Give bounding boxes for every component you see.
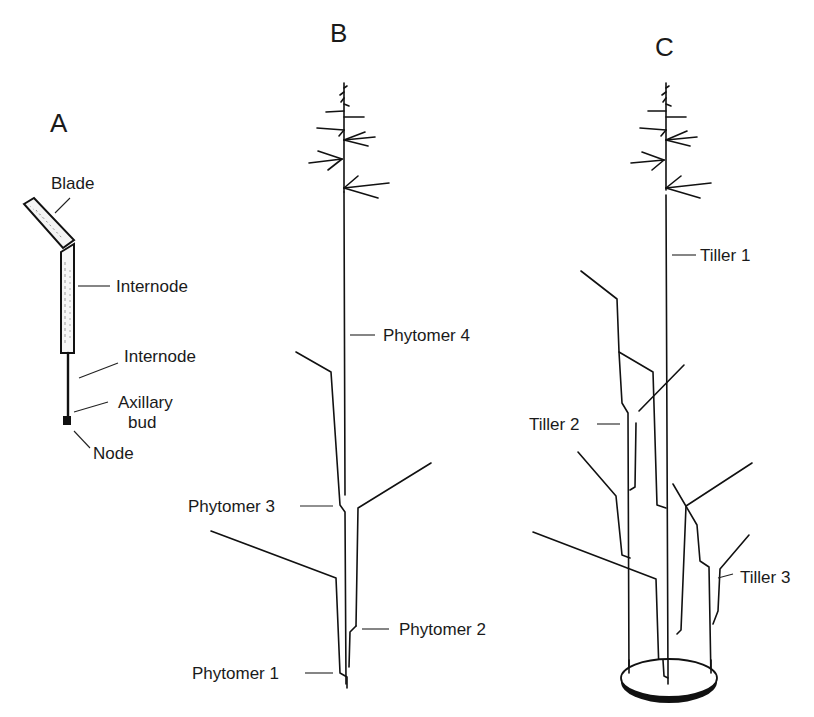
panel-b: B (188, 18, 486, 688)
inflorescence-c (631, 83, 711, 198)
tiller-3-leaf-2 (673, 484, 711, 680)
label-tiller-2: Tiller 2 (529, 415, 579, 434)
panel-c: C (529, 32, 790, 703)
axillary-bud-leader (74, 402, 108, 412)
label-blade: Blade (51, 174, 94, 193)
inflorescence-b (309, 83, 389, 198)
stem-phytomer-4 (344, 192, 345, 495)
label-phytomer-1: Phytomer 1 (192, 664, 279, 683)
label-tiller-1: Tiller 1 (700, 246, 750, 265)
label-internode-lower: Internode (124, 347, 196, 366)
label-internode-upper: Internode (116, 277, 188, 296)
label-tiller-3: Tiller 3 (740, 568, 790, 587)
node-shape (63, 416, 71, 425)
tiller-2-leaf-diagonal (639, 365, 684, 411)
tiller-3-leaf-1 (677, 463, 752, 634)
leaf-phytomer-3-right (356, 463, 431, 626)
tiller-2-outer (581, 271, 629, 680)
plant-structure-diagram: A Blade Internode Internode Axillary bud… (0, 0, 814, 717)
label-phytomer-3: Phytomer 3 (188, 497, 275, 516)
panel-a-title: A (50, 108, 68, 138)
panel-b-title: B (330, 18, 347, 48)
tiller-2-inner-sheath (630, 423, 636, 490)
tiller-2-lower-leaf (578, 452, 630, 558)
tiller-2-leaf-mid (619, 352, 666, 508)
blade-shape (24, 198, 74, 248)
label-phytomer-4: Phytomer 4 (383, 326, 470, 345)
internode-lower-leader (79, 363, 118, 378)
node-leader (74, 431, 90, 448)
label-axillary-bud-1: Axillary (118, 393, 173, 412)
panel-c-title: C (655, 32, 674, 62)
upper-internode-shape (61, 244, 74, 353)
label-axillary-bud-2: bud (128, 413, 156, 432)
panel-a: A Blade Internode Internode Axillary bud… (24, 108, 196, 463)
tiller-1-stem (666, 195, 668, 683)
label-phytomer-2: Phytomer 2 (399, 620, 486, 639)
label-node: Node (93, 444, 134, 463)
tiller-1-lower-leaf (533, 532, 666, 676)
soil-base-disc (621, 659, 717, 703)
phytomer-2-sheath (349, 626, 356, 667)
blade-leader (55, 198, 70, 213)
